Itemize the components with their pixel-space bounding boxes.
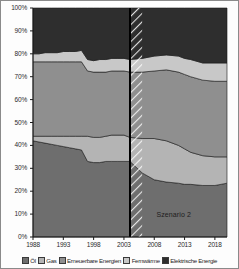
y-tick-label: 100% [1, 4, 27, 11]
legend-item-label: Öl [30, 258, 36, 264]
plot-area: 0%10%20%30%40%50%60%70%80%90%100% 198819… [1, 1, 239, 246]
legend-swatch-icon [123, 257, 130, 264]
y-tick-label: 80% [1, 50, 27, 57]
y-tick-label: 10% [1, 210, 27, 217]
legend-item[interactable]: Öl [22, 257, 36, 264]
legend-item-label: Fernwärme [132, 258, 160, 264]
y-tick-label: 0% [1, 233, 27, 240]
legend-item[interactable]: Erneuerbare Energien [59, 257, 122, 264]
stacked-area-plot [1, 1, 239, 246]
x-tick-label: 2013 [170, 241, 200, 248]
legend-item[interactable]: Gas [38, 257, 57, 264]
chart-legend: ÖlGasErneuerbare EnergienFernwärmeElektr… [1, 253, 239, 268]
scenario-annotation: Szenario 2 [157, 211, 191, 218]
x-tick-label: 2008 [139, 241, 169, 248]
y-tick-label: 20% [1, 187, 27, 194]
y-tick-label: 50% [1, 119, 27, 126]
x-tick-label: 1998 [79, 241, 109, 248]
energy-mix-chart-figure: 0%10%20%30%40%50%60%70%80%90%100% 198819… [0, 0, 239, 269]
y-tick-label: 40% [1, 141, 27, 148]
y-tick-label: 30% [1, 164, 27, 171]
y-tick-label: 70% [1, 73, 27, 80]
legend-swatch-icon [22, 257, 29, 264]
legend-item[interactable]: Fernwärme [123, 257, 160, 264]
legend-swatch-icon [38, 257, 45, 264]
x-tick-label: 1988 [18, 241, 48, 248]
y-tick-label: 60% [1, 96, 27, 103]
legend-swatch-icon [59, 257, 66, 264]
legend-item-label: Gas [46, 258, 56, 264]
legend-item-label: Erneuerbare Energien [67, 258, 121, 264]
legend-item[interactable]: Elektrische Energie [162, 257, 217, 264]
y-tick-label: 90% [1, 27, 27, 34]
x-tick-label: 1993 [48, 241, 78, 248]
legend-swatch-icon [162, 257, 169, 264]
x-tick-label: 2018 [200, 241, 230, 248]
x-tick-label: 2003 [109, 241, 139, 248]
legend-item-label: Elektrische Energie [170, 258, 217, 264]
hatch-rect [130, 8, 142, 237]
forecast-hatch-band [130, 8, 142, 237]
